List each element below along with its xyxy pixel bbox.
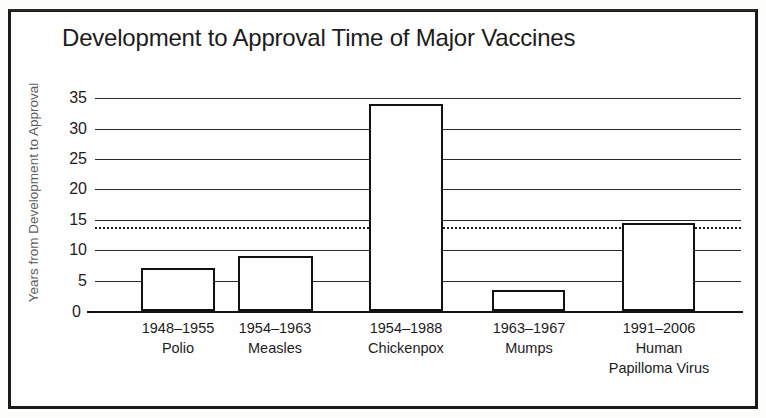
- x-label-chickenpox-years: 1954–1988: [346, 318, 466, 338]
- y-tick-label-25: 25: [47, 150, 87, 168]
- y-tick-label-10: 10: [47, 241, 87, 259]
- x-label-hpv: 1991–2006 Human Papilloma Virus: [588, 318, 730, 378]
- y-tick-label-35: 35: [47, 89, 87, 107]
- plot-area: 35 30 25 20 15 10 5 0: [95, 86, 741, 311]
- chart-title: Development to Approval Time of Major Va…: [62, 24, 702, 52]
- x-label-measles: 1954–1963 Measles: [215, 318, 335, 358]
- x-label-hpv-name: Human: [588, 338, 730, 358]
- bar-chickenpox[interactable]: [369, 104, 443, 311]
- y-tick-label-0: 0: [41, 303, 81, 321]
- bar-chart: Development to Approval Time of Major Va…: [0, 0, 766, 418]
- x-label-chickenpox: 1954–1988 Chickenpox: [346, 318, 466, 358]
- x-label-chickenpox-name: Chickenpox: [346, 338, 466, 358]
- x-label-hpv-years: 1991–2006: [588, 318, 730, 338]
- x-label-measles-name: Measles: [215, 338, 335, 358]
- y-tick-label-15: 15: [47, 211, 87, 229]
- x-label-mumps: 1963–1967 Mumps: [469, 318, 589, 358]
- x-axis-labels: 1948–1955 Polio 1954–1963 Measles 1954–1…: [95, 318, 741, 414]
- gridline-35: 35: [95, 98, 741, 99]
- screenshot-root: Development to Approval Time of Major Va…: [0, 0, 766, 418]
- x-label-measles-years: 1954–1963: [215, 318, 335, 338]
- y-tick-label-5: 5: [47, 272, 87, 290]
- bar-measles[interactable]: [238, 256, 313, 311]
- x-label-mumps-name: Mumps: [469, 338, 589, 358]
- y-axis-title: Years from Development to Approval: [26, 43, 41, 343]
- bar-polio[interactable]: [141, 268, 215, 311]
- bar-hpv[interactable]: [622, 223, 695, 311]
- x-label-hpv-name-line2: Papilloma Virus: [588, 358, 730, 378]
- x-axis-baseline: 0: [87, 311, 743, 313]
- y-tick-label-20: 20: [47, 180, 87, 198]
- y-tick-label-30: 30: [47, 120, 87, 138]
- bar-mumps[interactable]: [492, 290, 565, 311]
- x-label-mumps-years: 1963–1967: [469, 318, 589, 338]
